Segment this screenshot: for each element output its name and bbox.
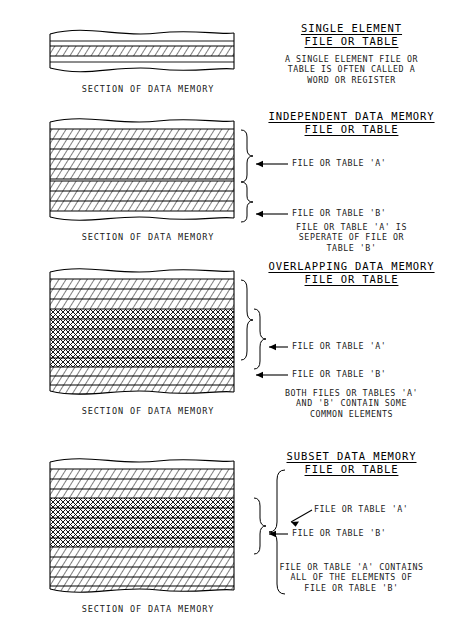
region-file-a-only <box>48 279 248 309</box>
text-column-independent: INDEPENDENT DATA MEMORY FILE OR TABLE <box>252 110 451 136</box>
section-description: FILE OR TABLE 'A' IS SEPERATE OF FILE OR… <box>252 222 451 253</box>
title-line-2: FILE OR TABLE <box>252 463 451 476</box>
text-column-overlapping: OVERLAPPING DATA MEMORY FILE OR TABLE <box>252 260 451 286</box>
callout-file-a: FILE OR TABLE 'A' <box>292 158 386 168</box>
block-caption: SECTION OF DATA MEMORY <box>22 84 274 94</box>
section-title: SINGLE ELEMENT FILE OR TABLE <box>252 22 451 48</box>
section-description: FILE OR TABLE 'A' CONTAINS ALL OF THE EL… <box>252 562 451 593</box>
desc-line-1: A SINGLE ELEMENT FILE OR <box>252 54 451 64</box>
title-line-2: FILE OR TABLE <box>252 35 451 48</box>
section-title: OVERLAPPING DATA MEMORY FILE OR TABLE <box>252 260 451 286</box>
title-line-2: FILE OR TABLE <box>252 273 451 286</box>
title-line-1: SINGLE ELEMENT <box>252 22 451 35</box>
desc-line-3: FILE OR TABLE 'B' <box>252 583 451 593</box>
region-file-b <box>48 181 248 211</box>
callout-file-a: FILE OR TABLE 'A' <box>314 504 408 514</box>
title-line-1: INDEPENDENT DATA MEMORY <box>252 110 451 123</box>
desc-column-subset: FILE OR TABLE 'A' CONTAINS ALL OF THE EL… <box>252 562 451 593</box>
memory-block-svg <box>48 112 248 228</box>
desc-column-overlapping: BOTH FILES OR TABLES 'A' AND 'B' CONTAIN… <box>252 388 451 419</box>
text-column-subset: SUBSET DATA MEMORY FILE OR TABLE <box>252 450 451 476</box>
region-file-b-subset <box>48 498 248 547</box>
section-description: A SINGLE ELEMENT FILE OR TABLE IS OFTEN … <box>252 54 451 85</box>
diagram-sheet: SECTION OF DATA MEMORY SINGLE ELEMENT FI… <box>0 0 451 642</box>
section-title: SUBSET DATA MEMORY FILE OR TABLE <box>252 450 451 476</box>
desc-line-1: FILE OR TABLE 'A' CONTAINS <box>252 562 451 572</box>
callout-file-b: FILE OR TABLE 'B' <box>292 369 386 379</box>
desc-line-2: SEPERATE OF FILE OR <box>252 232 451 242</box>
desc-line-1: FILE OR TABLE 'A' IS <box>252 222 451 232</box>
desc-line-3: COMMON ELEMENTS <box>252 409 451 419</box>
memory-block-svg <box>48 262 248 402</box>
row-file-a <box>48 46 248 56</box>
region-file-a-bottom <box>48 547 248 592</box>
title-line-1: OVERLAPPING DATA MEMORY <box>252 260 451 273</box>
title-line-1: SUBSET DATA MEMORY <box>252 450 451 463</box>
memory-block-svg <box>48 22 248 80</box>
text-column-single-element: SINGLE ELEMENT FILE OR TABLE A SINGLE EL… <box>252 22 451 85</box>
desc-line-3: WORD OR REGISTER <box>252 75 451 85</box>
memory-block-svg <box>48 452 248 600</box>
title-line-2: FILE OR TABLE <box>252 123 451 136</box>
desc-line-2: AND 'B' CONTAIN SOME <box>252 398 451 408</box>
region-file-a <box>48 129 248 179</box>
desc-line-2: TABLE IS OFTEN CALLED A <box>252 64 451 74</box>
block-fill <box>48 262 248 402</box>
block-caption: SECTION OF DATA MEMORY <box>22 604 274 614</box>
block-caption: SECTION OF DATA MEMORY <box>22 406 274 416</box>
desc-line-1: BOTH FILES OR TABLES 'A' <box>252 388 451 398</box>
callout-file-b: FILE OR TABLE 'B' <box>292 208 386 218</box>
desc-line-3: TABLE 'B' <box>252 243 451 253</box>
block-fill <box>48 452 248 600</box>
section-description: BOTH FILES OR TABLES 'A' AND 'B' CONTAIN… <box>252 388 451 419</box>
callout-file-a: FILE OR TABLE 'A' <box>292 341 386 351</box>
callout-file-b: FILE OR TABLE 'B' <box>292 528 386 538</box>
section-title: INDEPENDENT DATA MEMORY FILE OR TABLE <box>252 110 451 136</box>
block-fill <box>48 112 248 228</box>
desc-column-independent: FILE OR TABLE 'A' IS SEPERATE OF FILE OR… <box>252 222 451 253</box>
desc-line-2: ALL OF THE ELEMENTS OF <box>252 572 451 582</box>
region-file-a-top <box>48 469 248 498</box>
block-caption: SECTION OF DATA MEMORY <box>22 232 274 242</box>
